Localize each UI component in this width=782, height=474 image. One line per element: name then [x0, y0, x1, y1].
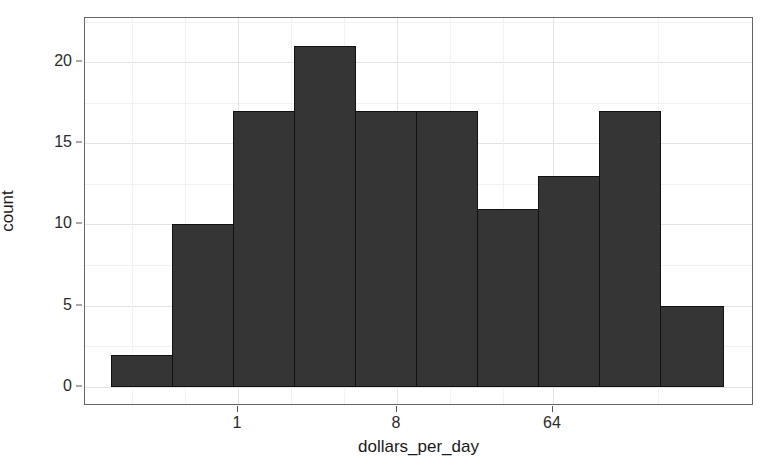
ytick-label-15: 15	[54, 133, 72, 151]
ytick-mark-15	[76, 142, 82, 143]
y-axis: 0 5 10 15 20	[0, 0, 72, 474]
bar-8	[599, 111, 661, 388]
ytick-label-5: 5	[63, 296, 72, 314]
chart-root: 0 5 10 15 20 1 8 64 dollars_per_day coun…	[0, 0, 782, 474]
bar-0	[111, 355, 173, 388]
bar-6	[477, 209, 539, 388]
gridline-x-0p25	[132, 18, 133, 404]
bar-2	[233, 111, 295, 388]
x-axis-title: dollars_per_day	[84, 437, 753, 457]
plot-panel	[84, 17, 753, 405]
bar-1	[172, 224, 234, 387]
xtick-label-8: 8	[392, 414, 401, 432]
ytick-mark-10	[76, 223, 82, 224]
ytick-label-20: 20	[54, 52, 72, 70]
y-axis-title: count	[0, 190, 18, 232]
bar-9	[660, 306, 724, 387]
bar-4	[355, 111, 417, 388]
bar-7	[538, 176, 600, 387]
xtick-mark-8	[396, 406, 397, 412]
bar-3	[294, 46, 356, 387]
ytick-mark-0	[76, 386, 82, 387]
xtick-label-64: 64	[543, 414, 561, 432]
ytick-label-0: 0	[63, 377, 72, 395]
ytick-label-10: 10	[54, 214, 72, 232]
xtick-mark-1	[237, 406, 238, 412]
xtick-mark-64	[552, 406, 553, 412]
ytick-mark-20	[76, 61, 82, 62]
xtick-label-1: 1	[233, 414, 242, 432]
ytick-mark-5	[76, 305, 82, 306]
bar-5	[416, 111, 478, 388]
